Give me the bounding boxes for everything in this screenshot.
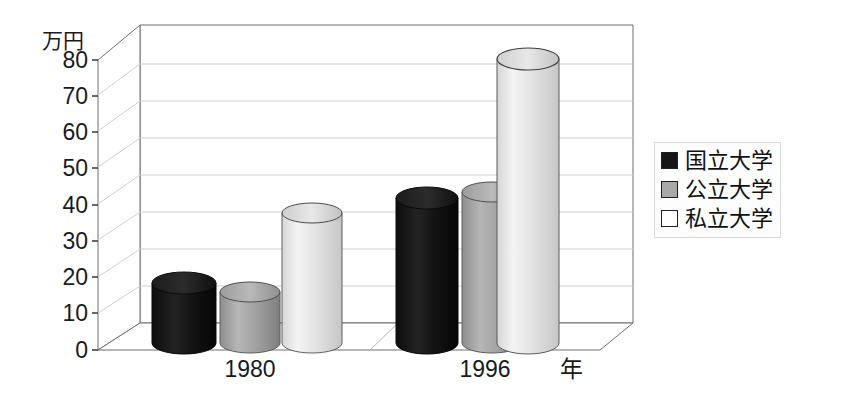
y-tick-label-60: 60 — [44, 121, 88, 144]
legend-item-kokuritsu[interactable]: 国立大学 — [661, 146, 773, 175]
legend-item-shiritsu[interactable]: 私立大学 — [661, 204, 773, 233]
y-tick-label-50: 50 — [44, 157, 88, 180]
y-tick-label-30: 30 — [44, 230, 88, 253]
bar-1996-kokuritsu — [396, 187, 458, 354]
legend-label-kokuritsu: 国立大学 — [685, 150, 773, 172]
y-tick-label-0: 0 — [44, 339, 88, 362]
bar-1996-shiritsu — [497, 48, 559, 354]
plot-left-wall — [98, 25, 140, 350]
x-axis-name: 年 — [560, 358, 583, 381]
x-tick-label-1996: 1996 — [425, 358, 545, 381]
black-square-icon — [661, 152, 678, 169]
x-tick-label-1980: 1980 — [190, 358, 310, 381]
bar-1980-koritsu — [220, 282, 280, 353]
y-tick-label-80: 80 — [44, 49, 88, 72]
legend: 国立大学 公立大学 私立大学 — [654, 142, 781, 238]
y-tick-label-70: 70 — [44, 85, 88, 108]
y-axis-ticks — [92, 60, 98, 350]
legend-label-koritsu: 公立大学 — [685, 179, 773, 201]
y-tick-label-10: 10 — [44, 302, 88, 325]
legend-item-koritsu[interactable]: 公立大学 — [661, 175, 773, 204]
y-tick-label-20: 20 — [44, 266, 88, 289]
legend-label-shiritsu: 私立大学 — [685, 208, 773, 230]
bar-1980-kokuritsu — [152, 272, 216, 354]
chart-container: 万円 80 70 60 50 40 30 20 10 0 1980 1996 年… — [0, 0, 849, 410]
gray-square-icon — [661, 181, 678, 198]
bar-1980-shiritsu — [282, 203, 342, 353]
white-square-icon — [661, 210, 678, 227]
y-tick-label-40: 40 — [44, 194, 88, 217]
